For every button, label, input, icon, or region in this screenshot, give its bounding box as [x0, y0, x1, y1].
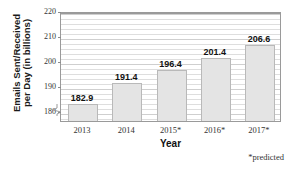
y-axis-tick-mark	[58, 37, 61, 38]
y-axis-tick-mark	[58, 112, 61, 113]
y-axis-tick-mark	[58, 62, 61, 63]
bar-chart: Emails Sent/Received per Day (in billion…	[0, 0, 288, 169]
chart-footnote: *predicted	[248, 152, 284, 162]
bar-value-label: 182.9	[62, 94, 102, 103]
x-axis-tick-label: 2014	[104, 126, 148, 135]
bar	[112, 83, 142, 122]
gridline	[61, 14, 280, 15]
x-axis-tick-label: 2015*	[149, 126, 193, 135]
bar-value-label: 196.4	[151, 60, 191, 69]
y-axis-tick-label: 220	[30, 8, 56, 16]
bar-value-label: 201.4	[195, 48, 235, 57]
bar	[201, 58, 231, 122]
x-axis-title: Year	[60, 138, 281, 149]
bar	[245, 45, 275, 122]
gridline	[61, 19, 280, 20]
y-axis-tick-mark	[58, 87, 61, 88]
y-axis-tick-label: 190	[30, 83, 56, 91]
bar	[68, 104, 98, 121]
y-axis-tick-mark	[58, 12, 61, 13]
x-axis-tick-label: 2013	[60, 126, 104, 135]
bar-value-label: 206.6	[239, 35, 279, 44]
x-axis-tick-label: 2017*	[237, 126, 281, 135]
x-axis-tick-label: 2016*	[193, 126, 237, 135]
gridline	[61, 29, 280, 30]
axis-break-icon	[51, 104, 63, 116]
gridline	[61, 24, 280, 25]
bar-value-label: 191.4	[106, 73, 146, 82]
y-axis-ticks: 220210200190180	[30, 0, 56, 169]
bar	[157, 70, 187, 121]
y-axis-tick-label: 200	[30, 58, 56, 66]
y-axis-tick-label: 210	[30, 33, 56, 41]
